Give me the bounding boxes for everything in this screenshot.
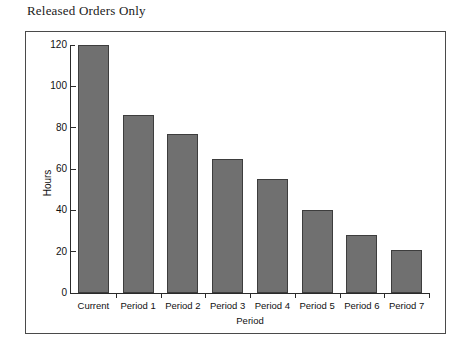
x-axis-tick-label: Period 7 [384, 300, 429, 311]
bar[interactable] [212, 159, 243, 293]
y-axis-tick-label: 60 [56, 164, 71, 174]
y-axis-tick-label: 80 [56, 123, 71, 133]
bar[interactable] [257, 179, 288, 293]
x-axis-tick-label: Current [71, 300, 116, 311]
y-axis-tick-label: 40 [56, 205, 71, 215]
bar-slot [116, 45, 161, 293]
bar-slot [250, 45, 295, 293]
y-axis-title: Hours [42, 169, 53, 196]
y-axis-tick-label: 0 [61, 288, 71, 298]
bar-slot [205, 45, 250, 293]
y-axis-tick-label: 120 [50, 40, 71, 50]
bar[interactable] [167, 134, 198, 293]
bar[interactable] [123, 115, 154, 293]
bar-slot [384, 45, 429, 293]
x-axis-tick-mark [384, 293, 385, 298]
x-axis-tick-mark [295, 293, 296, 298]
y-axis-tick-label: 100 [50, 81, 71, 91]
x-axis-tick-label: Period 4 [250, 300, 295, 311]
bar-slot [161, 45, 206, 293]
plot-area: 020406080100120 CurrentPeriod 1Period 2P… [70, 45, 429, 294]
x-axis-tick-mark [161, 293, 162, 298]
bar[interactable] [346, 235, 377, 293]
x-axis-tick-label: Period 5 [295, 300, 340, 311]
bar-slot [71, 45, 116, 293]
x-axis-title: Period [71, 315, 429, 326]
chart-frame: Hours 020406080100120 CurrentPeriod 1Per… [25, 31, 446, 334]
bar[interactable] [302, 210, 333, 293]
bar[interactable] [391, 250, 422, 293]
x-axis-tick-mark [116, 293, 117, 298]
y-axis-tick-label: 20 [56, 247, 71, 257]
bar-slot [340, 45, 385, 293]
x-axis-tick-mark [340, 293, 341, 298]
x-axis-tick-mark [250, 293, 251, 298]
bar[interactable] [78, 45, 109, 293]
x-axis-tick-label: Period 2 [161, 300, 206, 311]
x-axis-tick-label: Period 6 [340, 300, 385, 311]
page-title: Released Orders Only [27, 3, 146, 19]
x-axis-tick-labels: CurrentPeriod 1Period 2Period 3Period 4P… [71, 300, 429, 311]
bar-slot [295, 45, 340, 293]
bar-series [71, 45, 429, 293]
x-axis-tick-label: Period 3 [205, 300, 250, 311]
x-axis-tick-label: Period 1 [116, 300, 161, 311]
x-axis-tick-mark [429, 293, 430, 298]
x-axis-tick-mark [205, 293, 206, 298]
